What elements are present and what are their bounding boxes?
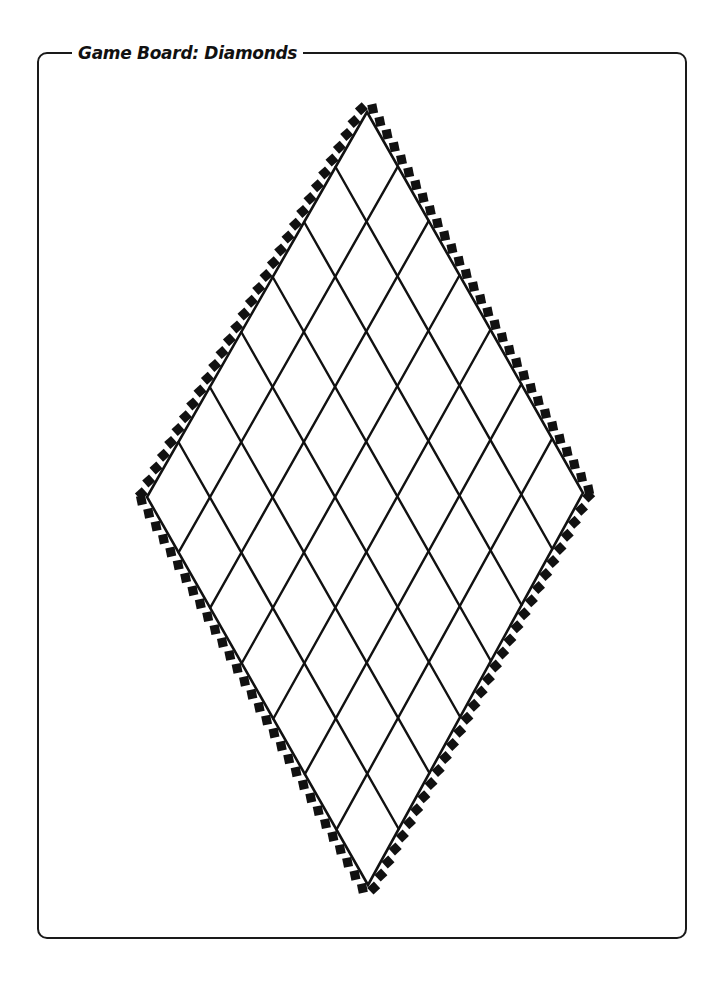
border-tooth [446,243,457,254]
border-tooth [283,753,294,764]
border-tooth [504,345,515,356]
border-tooth [374,116,385,127]
border-tooth [320,818,331,829]
border-tooth [327,831,338,842]
border-tooth [418,192,429,203]
border-tooth [576,472,587,483]
border-tooth [342,857,353,868]
border-tooth [187,585,198,596]
border-tooth [569,459,580,470]
border-tooth [276,741,287,752]
border-tooth [526,383,537,394]
border-tooth [533,395,544,406]
border-tooth [432,218,443,229]
border-tooth [547,421,558,432]
border-tooth [298,779,309,790]
border-tooth [454,256,465,267]
border-tooth [239,676,250,687]
border-tooth [468,281,479,292]
border-tooth [367,103,378,114]
border-tooth [562,446,573,457]
border-tooth [232,663,243,674]
border-tooth [261,715,272,726]
border-tooth [173,559,184,570]
border-tooth [425,205,436,216]
diamond-grid [147,112,583,885]
border-tooth [482,307,493,318]
border-tooth [490,319,501,330]
border-tooth [396,154,407,165]
border-tooth [497,332,508,343]
border-tooth [511,357,522,368]
border-tooth [195,598,206,609]
border-tooth [382,129,393,140]
border-tooth [461,268,472,279]
border-tooth [518,370,529,381]
border-tooth [305,792,316,803]
border-tooth [403,167,414,178]
border-tooth [143,508,154,519]
border-tooth [217,637,228,648]
border-tooth [350,870,361,881]
border-tooth [165,547,176,558]
border-tooth [389,141,400,152]
border-tooth [410,180,421,191]
border-tooth [254,702,265,713]
border-tooth [475,294,486,305]
border-tooth [554,434,565,445]
border-tooth [439,230,450,241]
border-tooth [210,624,221,635]
border-tooth [151,521,162,532]
diamond-game-board [0,0,727,982]
border-tooth [540,408,551,419]
